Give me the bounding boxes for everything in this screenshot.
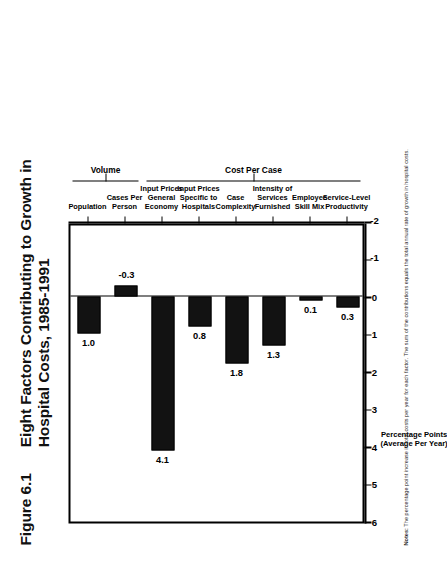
figure-title-line-2: Hospital Costs, 1985-1991	[34, 159, 52, 447]
footnote-text: The percentage point increase in total c…	[402, 149, 408, 526]
value-axis: 6543210-1-2	[364, 223, 366, 523]
bar-value-label: -0.3	[118, 269, 132, 279]
bar	[262, 296, 285, 345]
bar	[188, 296, 211, 326]
value-axis-tick	[364, 521, 371, 523]
bar-value-label: 1.0	[81, 338, 95, 348]
bar-value-label: 0.3	[340, 311, 354, 321]
bar-value-label: 4.1	[155, 454, 169, 464]
category-label-line: Productivity	[322, 202, 370, 211]
plot-frame: 1.0-0.34.10.81.81.30.10.3	[68, 223, 364, 523]
bar	[336, 296, 359, 307]
category-label-line: Furnished	[252, 202, 291, 211]
value-axis-tick-label: 0	[371, 291, 376, 302]
bar-value-label: 0.8	[192, 330, 206, 340]
value-axis-tick	[364, 371, 371, 373]
bar-value-label: 1.3	[266, 349, 280, 359]
plot-area: 1.0-0.34.10.81.81.30.10.3	[70, 225, 362, 521]
value-axis-title-line-1: Percentage Points	[380, 429, 447, 438]
category-label: Population	[67, 202, 105, 211]
category-label: Service-LevelProductivity	[322, 193, 370, 211]
bar-value-label: 1.8	[229, 368, 243, 378]
category-label: Input PricesGeneralEconomy	[139, 184, 181, 211]
value-axis-tick	[364, 334, 371, 336]
category-label: EmployeeSkill Mix	[291, 193, 326, 211]
value-axis-title-line-2: (Average Per Year)	[380, 438, 447, 447]
page-title: Eight Factors Contributing to Growth in …	[16, 159, 52, 447]
group-label: Cost Per Case	[225, 164, 282, 174]
category-label-line: Skill Mix	[291, 202, 326, 211]
category-axis-tick	[198, 216, 200, 223]
bar	[299, 296, 322, 300]
category-label-line: Services	[252, 193, 291, 202]
value-axis-tick-label: 5	[371, 479, 376, 490]
value-axis-tick	[364, 446, 371, 448]
value-axis-tick-label: 4	[371, 441, 376, 452]
figure-title-block: Figure 6.1 Eight Factors Contributing to…	[16, 25, 52, 545]
category-label: Cases PerPerson	[106, 193, 142, 211]
category-label: CaseComplexity	[215, 193, 255, 211]
category-axis-tick	[235, 216, 237, 223]
category-label-line: Population	[67, 202, 105, 211]
bar	[114, 285, 137, 296]
group-label: Volume	[90, 164, 120, 174]
figure-number: Figure 6.1	[16, 447, 34, 545]
value-axis-tick-label: 3	[371, 404, 376, 415]
category-axis-tick	[124, 216, 126, 223]
category-label-line: General	[139, 193, 181, 202]
bar-value-label: 0.1	[303, 304, 317, 314]
bar	[151, 296, 174, 450]
category-axis-tick	[161, 216, 163, 223]
value-axis-tick	[364, 296, 371, 298]
category-axis-tick	[309, 216, 311, 223]
category-label-line: Specific to	[176, 193, 218, 202]
category-label-line: Person	[106, 202, 142, 211]
category-axis-tick	[87, 216, 89, 223]
category-label-line: Complexity	[215, 202, 255, 211]
value-axis-tick-label: 2	[371, 366, 376, 377]
figure-title-line-1: Eight Factors Contributing to Growth in	[16, 159, 34, 447]
value-axis-tick-label: -1	[370, 252, 379, 263]
category-axis-tick	[346, 216, 348, 223]
value-axis-tick-label: -2	[370, 215, 379, 226]
value-axis-tick	[364, 409, 371, 411]
value-axis-tick	[364, 484, 371, 486]
bar	[77, 296, 100, 334]
value-axis-tick-label: 6	[371, 516, 376, 527]
category-axis: PopulationCases PerPersonInput PricesGen…	[68, 221, 364, 223]
value-axis-tick-label: 1	[371, 329, 376, 340]
category-axis-tick	[272, 216, 274, 223]
category-label-line: Hospitals	[176, 202, 218, 211]
footnote-lead: Notes:	[402, 528, 408, 545]
footnote: Notes: The percentage point increase in …	[402, 17, 410, 545]
bar	[225, 296, 248, 364]
value-axis-title: Percentage Points (Average Per Year)	[380, 429, 447, 448]
category-label: Intensity ofServicesFurnished	[252, 184, 291, 211]
category-label: Input PricesSpecific toHospitals	[176, 184, 218, 211]
category-label-line: Economy	[139, 202, 181, 211]
